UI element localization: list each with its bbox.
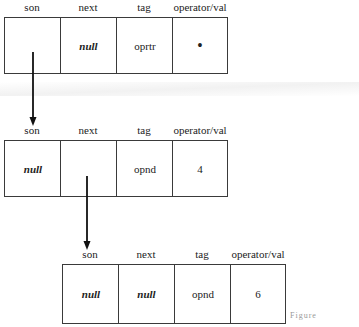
figure-caption-partial: Figure: [290, 311, 317, 320]
arrow-node1-son-to-node2: [30, 52, 37, 126]
arrow-node2-next-to-node3: [84, 176, 91, 250]
